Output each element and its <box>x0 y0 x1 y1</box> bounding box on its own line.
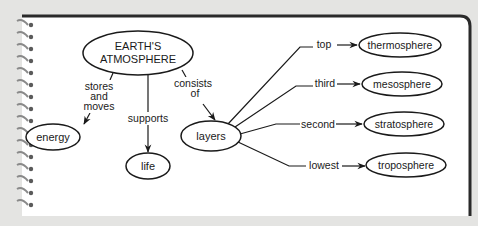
link-second: second <box>301 118 335 130</box>
spiral-hole <box>29 23 33 27</box>
thermosphere-label: thermosphere <box>368 39 433 51</box>
root-label-line2: ATMOSPHERE <box>100 53 176 65</box>
spiral-hole <box>29 119 33 123</box>
stratosphere-label: stratosphere <box>375 118 434 130</box>
mesosphere-label: mesosphere <box>373 78 431 90</box>
node-troposphere[interactable]: troposphere <box>366 153 446 177</box>
node-life[interactable]: life <box>126 153 170 179</box>
node-energy[interactable]: energy <box>26 124 80 150</box>
troposphere-label: troposphere <box>378 159 434 171</box>
spiral-hole <box>29 155 33 159</box>
spiral-hole <box>29 191 33 195</box>
spiral-hole <box>29 107 33 111</box>
spiral-hole <box>29 179 33 183</box>
node-stratosphere[interactable]: stratosphere <box>364 112 444 136</box>
link-consists-line2: of <box>191 87 200 99</box>
layers-label: layers <box>196 130 226 142</box>
link-supports: supports <box>128 112 168 124</box>
spiral-hole <box>29 35 33 39</box>
energy-label: energy <box>36 131 70 143</box>
spiral-hole <box>29 47 33 51</box>
spiral-hole <box>29 59 33 63</box>
life-label: life <box>141 160 155 172</box>
node-layers[interactable]: layers <box>181 121 241 151</box>
link-stores-line3: moves <box>84 100 115 112</box>
link-third: third <box>315 77 336 89</box>
link-top: top <box>317 38 332 50</box>
spiral-hole <box>29 71 33 75</box>
node-earths-atmosphere[interactable]: EARTH'S ATMOSPHERE <box>83 31 193 75</box>
concept-map: EARTH'S ATMOSPHERE energy life layers th… <box>0 0 478 226</box>
spiral-hole <box>29 167 33 171</box>
spiral-hole <box>29 95 33 99</box>
spiral-hole <box>29 203 33 207</box>
root-label-line1: EARTH'S <box>115 40 162 52</box>
spiral-hole <box>29 83 33 87</box>
node-mesosphere[interactable]: mesosphere <box>362 72 442 96</box>
link-lowest: lowest <box>309 159 339 171</box>
node-thermosphere[interactable]: thermosphere <box>359 33 441 57</box>
